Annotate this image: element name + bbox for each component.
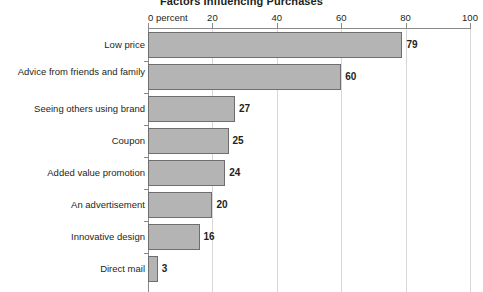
bar-value-label-0: 79 bbox=[406, 32, 417, 58]
x-axis-label-80: 80 bbox=[400, 12, 411, 23]
bar-value-label-4: 24 bbox=[229, 160, 240, 186]
bar-4 bbox=[148, 160, 225, 186]
category-label-4: Added value promotion bbox=[0, 167, 145, 179]
x-axis-label-0: 0 percent bbox=[148, 12, 188, 23]
x-tick-60 bbox=[341, 23, 342, 29]
bar-6 bbox=[148, 224, 200, 250]
category-label-6: Innovative design bbox=[0, 231, 145, 243]
bar-0 bbox=[148, 32, 402, 58]
x-axis-label-60: 60 bbox=[336, 12, 347, 23]
gridline-60 bbox=[341, 28, 342, 292]
x-axis-label-40: 40 bbox=[272, 12, 283, 23]
bar-value-label-6: 16 bbox=[204, 224, 215, 250]
x-tick-80 bbox=[406, 23, 407, 29]
category-tick-2 bbox=[144, 93, 149, 94]
category-tick-4 bbox=[144, 157, 149, 158]
category-label-7: Direct mail bbox=[0, 263, 145, 275]
bar-2 bbox=[148, 96, 235, 122]
x-tick-0 bbox=[148, 23, 149, 29]
bar-3 bbox=[148, 128, 229, 154]
category-label-5: An advertisement bbox=[0, 199, 145, 211]
bar-value-label-1: 60 bbox=[345, 64, 356, 90]
category-tick-5 bbox=[144, 189, 149, 190]
bar-value-label-3: 25 bbox=[233, 128, 244, 154]
x-tick-100 bbox=[470, 23, 471, 29]
bar-5 bbox=[148, 192, 212, 218]
category-tick-1 bbox=[144, 61, 149, 62]
x-axis-label-100: 100 bbox=[462, 12, 478, 23]
category-label-3: Coupon bbox=[0, 135, 145, 147]
bar-value-label-7: 3 bbox=[162, 256, 168, 282]
chart-title: Factors Influencing Purchases bbox=[0, 0, 483, 7]
bar-value-label-2: 27 bbox=[239, 96, 250, 122]
category-label-0: Low price bbox=[0, 39, 145, 51]
gridline-100 bbox=[470, 28, 471, 292]
category-label-1: Advice from friends and family bbox=[0, 66, 145, 78]
gridline-80 bbox=[406, 28, 407, 292]
category-tick-3 bbox=[144, 125, 149, 126]
bar-1 bbox=[148, 64, 341, 90]
bar-chart: Factors Influencing Purchases 0 percent2… bbox=[0, 0, 483, 292]
bar-value-label-5: 20 bbox=[216, 192, 227, 218]
bar-7 bbox=[148, 256, 158, 282]
category-label-2: Seeing others using brand bbox=[0, 103, 145, 115]
x-tick-20 bbox=[212, 23, 213, 29]
x-tick-40 bbox=[277, 23, 278, 29]
x-axis-label-20: 20 bbox=[207, 12, 218, 23]
category-tick-7 bbox=[144, 253, 149, 254]
category-tick-6 bbox=[144, 221, 149, 222]
